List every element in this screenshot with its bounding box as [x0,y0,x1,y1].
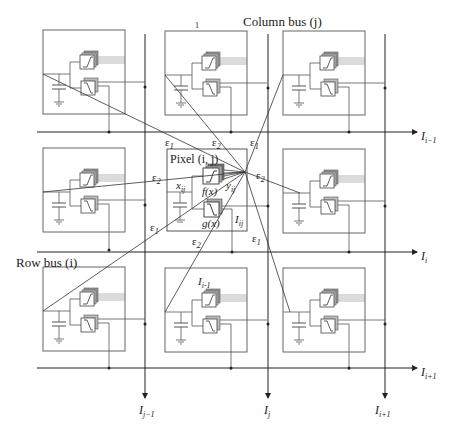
f-x-label: f(x) [202,186,217,197]
row-bus-label: Row bus (i) [16,256,77,269]
epsilon-2-bottom: ε2 [192,236,201,250]
epsilon-2-right: ε2 [256,170,265,184]
epsilon-2-top: ε2 [212,137,221,151]
row-output-i+1: Ii+1 [421,366,437,381]
column-output-j+1: Ii+1 [375,404,391,419]
pixel-label: Pixel (i, j) [170,153,218,165]
column-output-j: Ij [264,404,270,419]
epsilon-1-bottom-right: ε1 [252,233,261,247]
row-output-i: Ii [421,250,427,265]
column-bus-label: Column bus (j) [243,15,322,28]
g-x-label: g(x) [202,218,220,229]
pixel-array-diagram [0,0,451,432]
top-mark: 1 [195,22,199,30]
x-ij-label: xij [176,180,185,194]
I-inner-label: Ii-1 [198,276,211,290]
epsilon-1-top-left: ε1 [165,137,174,151]
column-output-j-1: Ij−1 [139,404,155,419]
epsilon-2-left: ε2 [152,172,161,186]
I-ij-label: Iij [235,214,243,228]
epsilon-1-top-right: ε1 [250,137,259,151]
y-ij-label: yij [226,180,235,194]
epsilon-1-left: ε1 [150,222,159,236]
row-output-i-1: Ii−1 [421,130,437,145]
